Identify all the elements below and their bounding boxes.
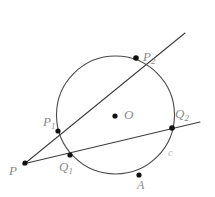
- label-point-P1: P1: [43, 115, 55, 130]
- point-marker-Q1: [67, 152, 72, 157]
- point-marker-O: [112, 113, 117, 118]
- point-marker-P1: [55, 128, 60, 133]
- label-A-base: A: [137, 178, 144, 192]
- label-point-Q2: Q2: [175, 107, 189, 122]
- label-P2-base: P: [143, 49, 151, 64]
- label-Q2-subscript: 2: [184, 113, 188, 123]
- label-circle-c: c: [168, 148, 172, 158]
- geometry-figure: P Q1 P1 P2 Q2 O A c: [0, 0, 215, 197]
- point-marker-P: [22, 160, 27, 165]
- label-Q1-subscript: 1: [68, 166, 72, 176]
- geometry-canvas: [0, 0, 215, 197]
- label-point-P: P: [9, 164, 17, 177]
- label-point-Q1: Q1: [59, 160, 73, 175]
- label-c-base: c: [168, 147, 172, 158]
- label-P1-base: P: [43, 114, 51, 129]
- label-P1-subscript: 1: [51, 121, 55, 131]
- label-point-P2: P2: [143, 50, 155, 65]
- point-marker-P2: [133, 55, 139, 61]
- point-marker-Q2: [169, 125, 175, 131]
- point-marker-A: [136, 172, 141, 177]
- label-P-base: P: [9, 163, 17, 178]
- label-point-O: O: [124, 108, 133, 121]
- label-Q1-base: Q: [59, 159, 68, 174]
- label-P2-subscript: 2: [151, 56, 155, 66]
- label-point-A: A: [137, 179, 144, 191]
- label-Q2-base: Q: [175, 106, 184, 121]
- label-O-base: O: [124, 107, 133, 122]
